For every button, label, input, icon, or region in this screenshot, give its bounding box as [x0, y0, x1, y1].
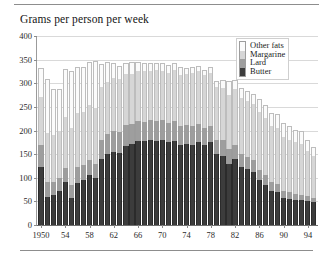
bar-stack[interactable]	[226, 81, 231, 225]
bar-segment-margarine	[251, 104, 256, 161]
bar-segment-margarine	[166, 73, 171, 123]
bar-stack[interactable]	[202, 70, 207, 225]
bar-stack[interactable]	[105, 62, 110, 225]
bar-stack[interactable]	[117, 66, 122, 225]
bar-segment-other-fats	[45, 79, 50, 132]
bar-segment-lard	[51, 182, 56, 195]
bar-segment-butter	[196, 142, 201, 225]
bar-stack[interactable]	[75, 67, 80, 225]
bar-segment-margarine	[208, 73, 213, 126]
legend-swatch-other-fats	[240, 42, 245, 51]
bar-stack[interactable]	[245, 91, 250, 225]
bar-stack[interactable]	[232, 80, 237, 226]
bar-segment-margarine	[129, 74, 134, 124]
bar-stack[interactable]	[87, 62, 92, 225]
bar-stack[interactable]	[190, 67, 195, 225]
bar-stack[interactable]	[57, 89, 62, 225]
bar-stack[interactable]	[93, 61, 98, 225]
bar-segment-other-fats	[135, 62, 140, 71]
bar-stack[interactable]	[51, 89, 56, 225]
bar-segment-lard	[257, 170, 262, 180]
x-tick-mark	[211, 225, 212, 228]
bar-segment-lard	[239, 154, 244, 167]
bar-segment-other-fats	[287, 126, 292, 139]
bar-stack[interactable]	[178, 67, 183, 225]
bar-segment-butter	[63, 182, 68, 225]
bar-stack[interactable]	[220, 80, 225, 225]
bar-segment-lard	[269, 182, 274, 191]
bar-segment-butter	[148, 140, 153, 225]
bar-stack[interactable]	[135, 62, 140, 225]
y-tick-label: 400	[19, 31, 32, 41]
bar-segment-margarine	[269, 126, 274, 183]
bar-stack[interactable]	[142, 63, 147, 225]
bar-segment-margarine	[154, 70, 159, 121]
bar-stack[interactable]	[257, 99, 262, 225]
legend-swatch-margarine	[240, 51, 245, 60]
bar-segment-lard	[129, 124, 134, 144]
bar-segment-margarine	[99, 87, 104, 140]
bar-segment-lard	[251, 160, 256, 172]
bar-stack[interactable]	[208, 67, 213, 225]
bar-stack[interactable]	[166, 65, 171, 225]
bar-stack[interactable]	[129, 62, 134, 225]
bar-segment-lard	[287, 192, 292, 199]
bar-segment-butter	[293, 200, 298, 225]
bar-segment-butter	[190, 145, 195, 225]
bar-segment-margarine	[190, 73, 195, 126]
bar-stack[interactable]	[99, 64, 104, 225]
bar-stack[interactable]	[269, 113, 274, 225]
bar-stack[interactable]	[263, 105, 268, 225]
bar-stack[interactable]	[81, 67, 86, 225]
bar-segment-butter	[45, 197, 50, 225]
bar-stack[interactable]	[123, 63, 128, 225]
bar-stack[interactable]	[293, 130, 298, 225]
bar-stack[interactable]	[251, 94, 256, 225]
bar-stack[interactable]	[69, 71, 74, 225]
bar-stack[interactable]	[160, 63, 165, 225]
bar-segment-lard	[178, 126, 183, 145]
bar-stack[interactable]	[311, 147, 316, 225]
bar-segment-lard	[190, 126, 195, 145]
x-tick-label: 1950	[33, 230, 50, 240]
bar-stack[interactable]	[148, 63, 153, 225]
bar-stack[interactable]	[239, 88, 244, 225]
bar-stack[interactable]	[196, 66, 201, 225]
bar-segment-other-fats	[172, 63, 177, 70]
bar-segment-lard	[275, 184, 280, 192]
bar-stack[interactable]	[184, 68, 189, 225]
bar-segment-butter	[184, 144, 189, 225]
bar-stack[interactable]	[45, 79, 50, 225]
bar-segment-margarine	[81, 112, 86, 165]
bar-segment-other-fats	[51, 89, 56, 134]
bar-segment-margarine	[239, 98, 244, 154]
bar-segment-butter	[251, 172, 256, 225]
bar-stack[interactable]	[63, 69, 68, 225]
bar-segment-margarine	[87, 105, 92, 161]
bar-stack[interactable]	[38, 68, 43, 225]
bar-stack[interactable]	[154, 63, 159, 225]
top-divider	[14, 4, 319, 5]
bar-stack[interactable]	[275, 114, 280, 225]
y-tick-label: 250	[19, 102, 32, 112]
bar-segment-butter	[69, 198, 74, 225]
bar-segment-butter	[214, 154, 219, 225]
bar-stack[interactable]	[281, 123, 286, 226]
y-tick-label: 50	[24, 196, 33, 206]
bar-stack[interactable]	[305, 140, 310, 225]
bar-segment-other-fats	[166, 65, 171, 73]
bar-stack[interactable]	[214, 81, 219, 225]
bar-segment-other-fats	[63, 69, 68, 117]
bar-stack[interactable]	[111, 63, 116, 225]
bar-segment-other-fats	[245, 91, 250, 101]
bar-stack[interactable]	[299, 131, 304, 225]
bar-stack[interactable]	[287, 126, 292, 225]
bar-segment-other-fats	[239, 88, 244, 98]
bar-segment-butter	[226, 164, 231, 225]
bar-segment-margarine	[184, 74, 189, 125]
legend-swatch-butter	[240, 68, 245, 77]
bar-segment-margarine	[142, 71, 147, 122]
bar-stack[interactable]	[172, 63, 177, 225]
bar-segment-margarine	[226, 95, 231, 149]
bar-segment-margarine	[214, 87, 219, 140]
